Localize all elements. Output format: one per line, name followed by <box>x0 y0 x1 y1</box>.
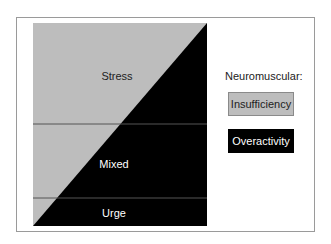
legend-title: Neuromuscular: <box>225 70 303 82</box>
region-label-mixed: Mixed <box>99 158 128 170</box>
legend-insufficiency-label: Insufficiency <box>231 98 291 110</box>
region-label-stress: Stress <box>101 70 132 82</box>
legend-insufficiency: Insufficiency <box>228 92 294 116</box>
incontinence-diagram <box>0 0 331 244</box>
legend-overactivity: Overactivity <box>228 129 294 153</box>
region-label-urge: Urge <box>102 207 126 219</box>
legend-overactivity-label: Overactivity <box>232 135 289 147</box>
